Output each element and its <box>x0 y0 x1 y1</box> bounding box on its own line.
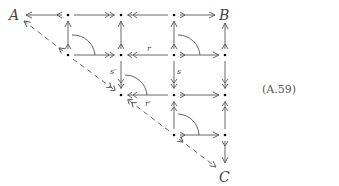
node-n34 <box>224 134 227 137</box>
dashed-arrow-n33-to-C <box>179 139 216 167</box>
node-n14 <box>224 54 227 57</box>
corner-arc-1 <box>72 35 95 55</box>
corner-arc-3 <box>125 75 147 95</box>
node-n01 <box>67 14 70 17</box>
node-n22 <box>120 94 123 97</box>
node-n13 <box>173 54 176 57</box>
node-n03 <box>173 14 176 17</box>
object-C: C <box>219 169 230 185</box>
node-n23 <box>173 94 176 97</box>
label-s-prime: s′ <box>110 67 116 76</box>
object-B: B <box>218 7 229 23</box>
node-n11 <box>67 54 70 57</box>
equation-number: (A.59) <box>262 83 296 96</box>
label-r: r <box>147 44 152 53</box>
node-n24 <box>224 94 227 97</box>
object-A: A <box>7 7 19 23</box>
corner-arc-2 <box>178 35 200 55</box>
node-n02 <box>120 14 123 17</box>
label-s: s <box>177 67 181 76</box>
corner-arc-4 <box>178 114 199 135</box>
node-n33 <box>173 134 176 137</box>
dashed-arrow-n11-to-A <box>24 21 63 51</box>
node-n12 <box>120 54 123 57</box>
label-r-prime: r′ <box>145 99 151 108</box>
